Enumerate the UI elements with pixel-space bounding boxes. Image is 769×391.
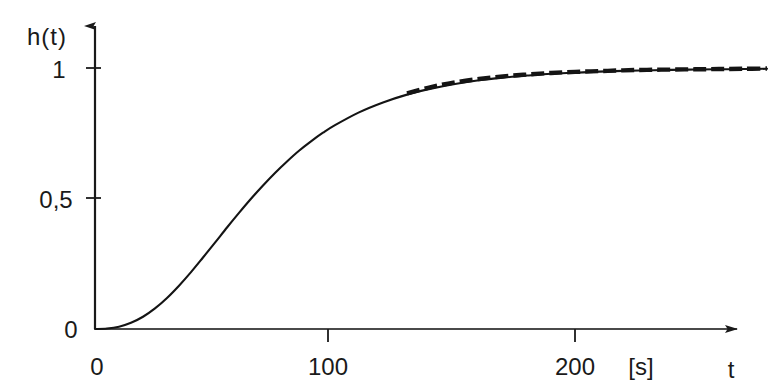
x-axis-label: t bbox=[728, 356, 735, 383]
x-tick-label-zero: 0 bbox=[90, 353, 103, 380]
y-axis-label: h(t) bbox=[27, 23, 67, 50]
response-curve-dashed bbox=[407, 69, 767, 94]
x-tick-label-200: 200 bbox=[555, 353, 595, 380]
step-response-plot: h(t) 1 0,5 0 0 100 200 [s] t bbox=[0, 0, 769, 391]
y-tick-label-1: 1 bbox=[52, 56, 65, 83]
y-tick-label-zero: 0 bbox=[64, 316, 77, 343]
response-curve-solid bbox=[95, 69, 767, 329]
chart-figure: h(t) 1 0,5 0 0 100 200 [s] t bbox=[0, 0, 769, 391]
x-tick-label-100: 100 bbox=[308, 353, 348, 380]
x-axis-unit-label: [s] bbox=[628, 353, 653, 380]
y-tick-label-half: 0,5 bbox=[39, 186, 72, 213]
